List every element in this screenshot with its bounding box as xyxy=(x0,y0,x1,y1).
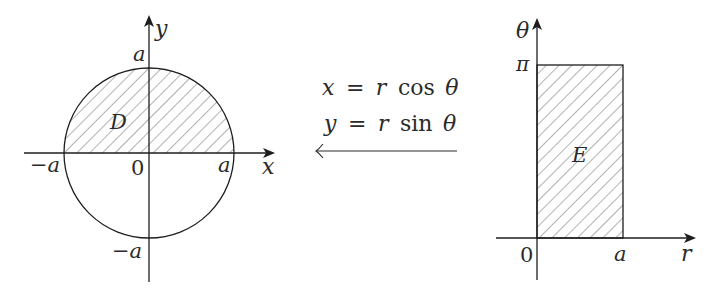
y-tick-a: a xyxy=(133,42,146,66)
equation-y: y = r sin θ xyxy=(323,111,456,136)
transform-equations: x = r cos θ y = r sin θ xyxy=(316,75,459,158)
y-tick-neg-a: −a xyxy=(112,239,142,263)
left-diagram: D y x a −a −a a 0 xyxy=(24,16,275,282)
region-d-label: D xyxy=(109,110,127,134)
origin-label-right: 0 xyxy=(520,243,533,267)
origin-label: 0 xyxy=(131,156,144,180)
polar-transform-figure: D y x a −a −a a 0 x = r cos θ y = r sin … xyxy=(0,0,709,297)
theta-tick-pi: π xyxy=(515,52,530,76)
r-axis-label: r xyxy=(681,241,693,266)
equation-x: x = r cos θ xyxy=(322,75,459,100)
y-axis-label: y xyxy=(154,16,168,41)
x-tick-neg-a: −a xyxy=(30,153,60,177)
right-diagram: E θ π r a 0 xyxy=(496,18,694,280)
x-tick-a: a xyxy=(218,153,231,177)
region-e-label: E xyxy=(571,143,587,167)
theta-axis-label: θ xyxy=(516,18,529,43)
left-arrow-icon xyxy=(316,144,457,158)
x-axis-label: x xyxy=(262,154,275,179)
r-tick-a: a xyxy=(614,242,627,266)
